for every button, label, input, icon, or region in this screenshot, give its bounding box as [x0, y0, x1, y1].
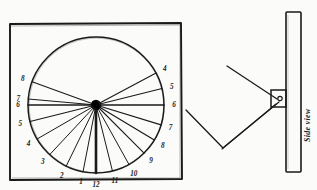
hour-label-right-16: 4 [162, 65, 167, 73]
gnomon-return-arm [186, 110, 223, 148]
hour-label-right-10: 10 [130, 170, 138, 178]
hour-label-left-0: 8 [21, 75, 25, 83]
hour-line-1L [83, 105, 96, 172]
hour-label-left-6: 2 [59, 172, 64, 180]
sundial-figure: 87654321121110987654 Side view [0, 0, 317, 190]
gnomon-upper-arm [227, 66, 277, 99]
hour-label-left-3: 5 [19, 120, 23, 128]
hour-label-left-4: 4 [26, 140, 31, 148]
figure-canvas: 87654321121110987654 Side view [0, 0, 317, 190]
pivot-hole-icon [278, 96, 282, 100]
hour-label-right-13: 7 [169, 124, 173, 132]
hour-label-right-14: 6 [172, 101, 176, 109]
hour-label-left-5: 3 [40, 158, 45, 166]
side-view-caption: Side view [303, 108, 312, 142]
hour-label-right-9: 11 [111, 177, 118, 185]
pivot-bracket [271, 90, 286, 107]
hour-line-8L [32, 82, 96, 105]
dial-hub [91, 100, 101, 110]
hour-line-5R [96, 89, 162, 105]
hour-line-5L [30, 105, 96, 121]
hour-label-left-7: 1 [79, 178, 83, 186]
hour-line-7L [28, 99, 96, 105]
hour-label-right-15: 5 [170, 83, 174, 91]
hour-label-bottom-8: 12 [92, 181, 100, 189]
hour-label-right-11: 9 [149, 157, 153, 165]
hour-line-11R [96, 105, 112, 171]
hour-label-left-2: 6 [16, 101, 20, 109]
hour-label-right-12: 8 [161, 142, 165, 150]
hour-line-4R [96, 73, 156, 105]
gnomon-lower-arm-inner [222, 104, 276, 149]
hour-line-3L [50, 105, 96, 155]
dial-panel: 87654321121110987654 [10, 23, 182, 189]
hour-line-group [28, 73, 164, 173]
side-view-panel: Side view [186, 12, 312, 172]
